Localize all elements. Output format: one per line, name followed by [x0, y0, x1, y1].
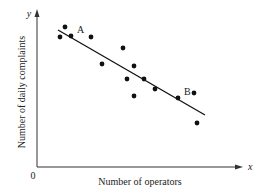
y-axis-symbol: y	[26, 8, 32, 19]
data-point	[58, 35, 63, 40]
x-axis-symbol: x	[247, 161, 253, 172]
data-point	[132, 64, 137, 69]
data-point	[69, 34, 74, 39]
axes	[35, 9, 244, 170]
data-point	[142, 77, 147, 82]
plot-area: AB	[58, 24, 205, 125]
data-point	[125, 77, 130, 82]
data-point	[195, 121, 200, 126]
data-point	[89, 35, 94, 40]
y-axis-arrow-icon	[35, 9, 40, 17]
x-axis-label: Number of operators	[98, 176, 181, 187]
data-point	[121, 46, 126, 51]
data-point	[192, 91, 197, 96]
regression-line	[58, 30, 205, 115]
data-point	[63, 25, 68, 30]
y-axis-label: Number of daily complaints	[16, 36, 27, 149]
point-annotation-b: B	[184, 86, 191, 97]
data-point	[153, 87, 158, 92]
data-point	[100, 62, 105, 67]
data-point	[132, 94, 137, 99]
scatter-chart: y x 0 Number of operators Number of dail…	[0, 0, 263, 195]
origin-label: 0	[31, 170, 36, 181]
x-axis-arrow-icon	[235, 165, 243, 170]
point-annotation-a: A	[77, 24, 85, 35]
data-point	[176, 96, 181, 101]
